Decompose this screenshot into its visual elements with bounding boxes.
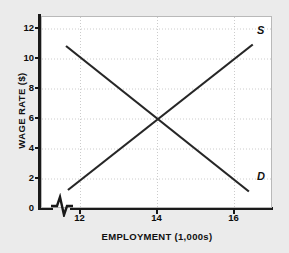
x-tick-mark [79, 209, 81, 214]
y-tick-mark [35, 177, 41, 179]
y-tick-label: 4 [6, 143, 34, 153]
y-tick-mark [35, 57, 41, 59]
demand-curve-label: D [257, 170, 265, 182]
y-axis-tick-labels: 024681012 [0, 0, 34, 253]
y-tick-label: 0 [6, 203, 34, 213]
y-tick-label: 2 [6, 173, 34, 183]
x-tick-mark [156, 209, 158, 214]
y-tick-mark [35, 117, 41, 119]
supply-curve-label: S [257, 24, 264, 36]
y-tick-mark [35, 27, 41, 29]
y-tick-mark [35, 147, 41, 149]
y-tick-label: 8 [6, 83, 34, 93]
y-tick-mark [35, 87, 41, 89]
supply-demand-chart: WAGE RATE ($) 024681012 S D EMPLOYMENT (… [0, 0, 289, 253]
y-tick-label: 12 [6, 23, 34, 33]
y-tick-label: 10 [6, 53, 34, 63]
y-tick-label: 6 [6, 113, 34, 123]
gridlines [42, 17, 273, 209]
x-axis-title: EMPLOYMENT (1,000s) [41, 231, 273, 242]
x-tick-mark [233, 209, 235, 214]
plot-area [41, 16, 272, 208]
